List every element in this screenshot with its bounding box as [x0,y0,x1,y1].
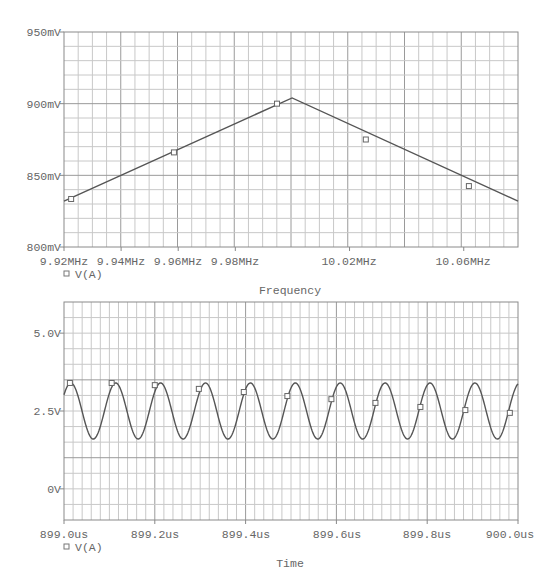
time-plot-grid [64,302,518,520]
square-marker-icon [285,394,290,399]
x-tick-9-98mhz: 9.98MHz [211,255,259,268]
x-tick-899-2us: 899.2us [131,528,179,541]
time-plot-legend: V(A) [64,541,103,554]
x-axis-title-time: Time [276,557,304,570]
y-tick-800mv: 800mV [26,241,61,254]
square-marker-icon [507,410,512,415]
x-axis-title-frequency: Frequency [259,284,321,297]
y-tick-5v: 5.0V [33,327,61,340]
x-tick-9-94mhz: 9.94MHz [97,255,145,268]
x-tick-9-96mhz: 9.96MHz [154,255,202,268]
square-marker-icon [67,380,72,385]
y-tick-850mv: 850mV [26,170,61,183]
square-marker-icon [329,397,334,402]
x-tick-10-02mhz: 10.02MHz [321,255,376,268]
square-marker-icon [64,271,69,276]
square-marker-icon [241,390,246,395]
square-marker-icon [196,386,201,391]
square-marker-icon [275,101,280,106]
x-tick-899-6us: 899.6us [313,528,361,541]
square-marker-icon [69,196,74,201]
square-marker-icon [109,380,114,385]
legend-label-v-a: V(A) [75,268,103,281]
frequency-plot-grid [64,32,518,247]
y-tick-900mv: 900mV [26,98,61,111]
square-marker-icon [152,383,157,388]
square-marker-icon [64,544,69,549]
y-tick-0v: 0V [47,483,61,496]
square-marker-icon [363,137,368,142]
x-tick-899-4us: 899.4us [222,528,270,541]
square-marker-icon [466,184,471,189]
x-tick-899-0us: 899.0us [40,528,88,541]
y-tick-2-5v: 2.5V [33,405,61,418]
x-tick-9-92mhz: 9.92MHz [40,255,88,268]
x-tick-899-8us: 899.8us [403,528,451,541]
square-marker-icon [373,400,378,405]
square-marker-icon [418,404,423,409]
plot-canvas: 950mV 900mV 850mV 800mV 9.92MHz 9.94MHz … [0,0,544,583]
x-tick-900-0us: 900.0us [486,528,534,541]
time-trace-v-a [60,333,518,524]
y-tick-950mv: 950mV [26,26,61,39]
square-marker-icon [463,408,468,413]
time-plot: 5.0V 2.5V 0V 899.0us 899.2us 899.4us 899… [33,302,534,570]
square-marker-icon [171,150,176,155]
frequency-plot: 950mV 900mV 850mV 800mV 9.92MHz 9.94MHz … [26,26,518,297]
legend-label-v-a: V(A) [75,541,103,554]
x-tick-10-06mhz: 10.06MHz [435,255,490,268]
frequency-plot-legend: V(A) [64,268,103,281]
